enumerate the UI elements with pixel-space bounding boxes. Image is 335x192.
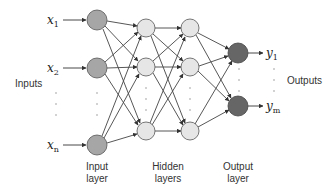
output-layer-label-1: Output <box>223 161 253 172</box>
hidden-layers-label-1: Hidden <box>152 161 184 172</box>
input-arrows <box>63 20 86 145</box>
input-var: xn <box>47 138 59 154</box>
edges-input-to-hidden1 <box>102 21 141 143</box>
output-var: ym <box>265 99 281 115</box>
input-variables: x1 x2 xn <box>47 13 59 154</box>
input-layer-label-2: layer <box>86 173 108 184</box>
output-layer <box>228 43 248 116</box>
input-node <box>87 135 107 155</box>
output-node <box>228 43 248 63</box>
hidden-layers-label-2: layers <box>155 173 182 184</box>
input-var: x2 <box>47 61 59 77</box>
input-var: x1 <box>47 13 59 29</box>
inputs-label: Inputs <box>15 78 42 89</box>
edges-hidden2-to-output <box>195 33 232 127</box>
output-var: y1 <box>265 46 278 62</box>
hidden-node <box>181 122 199 140</box>
hidden-node <box>181 19 199 37</box>
edges-hidden1-to-hidden2 <box>150 28 185 131</box>
input-node <box>87 10 107 30</box>
hidden-node <box>137 19 155 37</box>
output-layer-label-2: layer <box>227 173 249 184</box>
output-variables: y1 ym <box>265 46 281 115</box>
hidden-node <box>137 58 155 76</box>
output-node <box>228 96 248 116</box>
input-node <box>87 58 107 78</box>
output-arrows <box>248 53 263 106</box>
layer-labels: Input layer Hidden layers Output layer <box>86 161 253 184</box>
hidden-node <box>137 122 155 140</box>
outputs-label: Outputs <box>287 75 322 86</box>
hidden-node <box>181 58 199 76</box>
neural-network-diagram: x1 x2 xn y1 ym Inputs Outputs Input laye… <box>0 0 335 192</box>
input-layer-label-1: Input <box>86 161 108 172</box>
